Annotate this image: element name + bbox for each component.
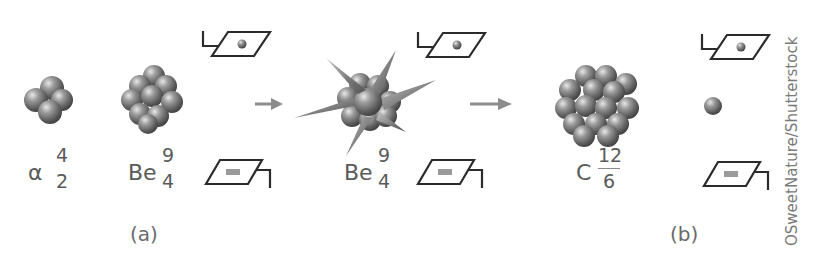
alpha-symbol: α <box>28 160 43 185</box>
excited-beryllium-symbol: Be <box>344 160 373 185</box>
carbon-mass-number: 12 <box>598 144 622 166</box>
fraction-bar <box>598 168 620 169</box>
excited-beryllium-mass-number: 9 <box>378 144 390 166</box>
alpha-label: α 4 2 <box>28 148 78 200</box>
beryllium-label: Be 9 4 <box>128 148 188 200</box>
alpha-atomic-number: 2 <box>56 170 68 192</box>
beryllium-nucleus-icon <box>120 64 186 136</box>
panel-a-caption: (a) <box>130 222 158 246</box>
carbon-label: C 12 6 <box>576 148 636 200</box>
panel-b-caption: (b) <box>670 222 698 246</box>
detector-with-particle-icon <box>417 31 489 59</box>
detector-with-bar-icon <box>416 158 488 188</box>
neutron-sphere-icon <box>703 96 723 116</box>
excited-beryllium-label: Be 9 4 <box>344 148 404 200</box>
right-arrow-icon <box>255 97 285 111</box>
spiky-nucleus-icon <box>296 50 446 160</box>
beryllium-atomic-number: 4 <box>162 170 174 192</box>
carbon-atomic-number: 6 <box>603 170 615 192</box>
alpha-nucleus-icon <box>22 72 74 128</box>
detector-with-bar-icon <box>702 160 774 190</box>
beryllium-mass-number: 9 <box>162 144 174 166</box>
alpha-mass-number: 4 <box>56 144 68 166</box>
right-arrow-icon <box>470 97 514 111</box>
detector-with-particle-icon <box>701 33 773 61</box>
image-credit: OSweetNature/Shutterstock <box>783 37 801 246</box>
carbon-symbol: C <box>576 160 591 185</box>
detector-with-particle-icon <box>202 30 274 58</box>
carbon-nucleus-icon <box>554 64 644 148</box>
excited-beryllium-atomic-number: 4 <box>378 170 390 192</box>
detector-with-bar-icon <box>204 158 276 188</box>
beryllium-symbol: Be <box>128 160 157 185</box>
